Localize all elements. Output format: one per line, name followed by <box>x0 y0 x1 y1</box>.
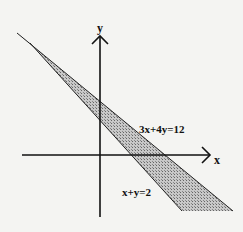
y-axis-label: y <box>97 21 103 35</box>
x-axis-label: x <box>214 153 220 167</box>
equation-label-lower: x+y=2 <box>122 186 152 198</box>
graph-canvas: y x 3x+4y=12 x+y=2 <box>0 0 243 232</box>
equation-label-upper: 3x+4y=12 <box>139 123 185 135</box>
line-3x-4y-12 <box>17 33 233 211</box>
